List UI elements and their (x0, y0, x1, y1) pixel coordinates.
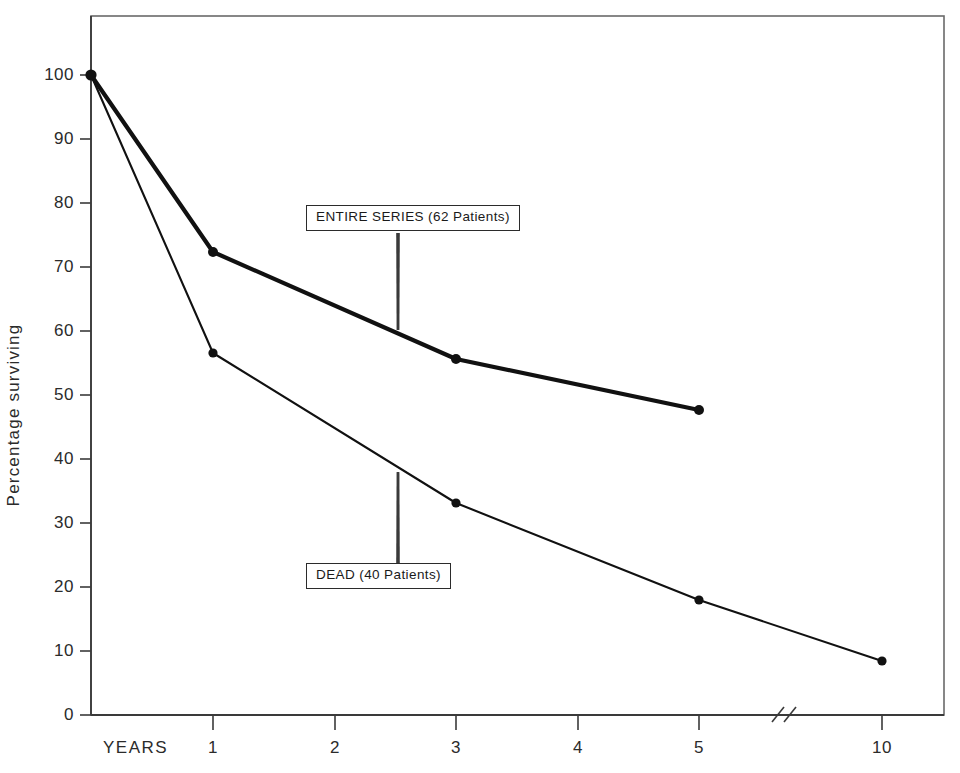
x-axis-title: YEARS (103, 738, 168, 758)
chart-canvas (0, 0, 960, 773)
y-tick-label: 10 (20, 641, 74, 661)
survival-curve-figure: 100 90 80 70 60 50 40 30 20 10 0 1 2 3 4… (0, 0, 960, 773)
callout-entire-series: ENTIRE SERIES (62 Patients) (306, 205, 520, 231)
y-tick-label: 20 (20, 577, 74, 597)
leader-line-entire-series (396, 233, 400, 330)
x-tick-label: 1 (208, 738, 218, 758)
x-tick-label: 10 (872, 738, 892, 758)
x-tick-label: 3 (451, 738, 461, 758)
series-line-dead (91, 75, 882, 661)
plot-frame (91, 16, 944, 715)
y-tick-label: 60 (20, 321, 74, 341)
leader-line-dead (396, 472, 400, 563)
x-tick-label: 5 (694, 738, 704, 758)
y-tick-label: 40 (20, 449, 74, 469)
callout-dead: DEAD (40 Patients) (306, 563, 451, 589)
y-tick-label: 90 (20, 129, 74, 149)
series-markers-dead (208, 348, 886, 665)
x-tick-label: 2 (330, 738, 340, 758)
x-axis-ticks (213, 715, 882, 730)
y-tick-label: 70 (20, 257, 74, 277)
x-tick-label: 4 (573, 738, 583, 758)
y-axis-ticks (80, 75, 91, 715)
y-tick-label: 100 (20, 65, 74, 85)
y-tick-label: 30 (20, 513, 74, 533)
y-tick-label: 80 (20, 193, 74, 213)
y-axis-title: Percentage surviving (4, 300, 24, 530)
series-line-entire-series (91, 75, 699, 410)
y-tick-label: 50 (20, 385, 74, 405)
series-markers-entire-series (85, 69, 704, 415)
y-tick-label: 0 (20, 705, 74, 725)
